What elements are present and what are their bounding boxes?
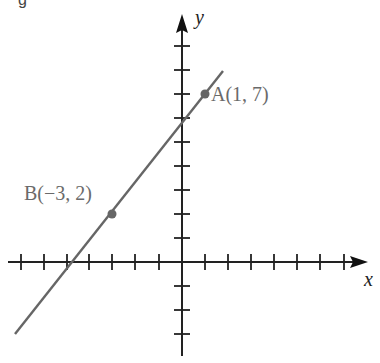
y-axis-label: y [193,6,204,29]
point-a [201,90,210,99]
x-axis-label: x [363,268,373,290]
point-a-label: A(1, 7) [211,83,269,106]
y-axis [174,14,190,356]
x-axis [8,254,368,270]
point-b-label: B(−3, 2) [24,182,92,205]
point-b [108,210,117,219]
coordinate-plane: g x [0,0,380,363]
figure-caption: g [18,0,27,8]
